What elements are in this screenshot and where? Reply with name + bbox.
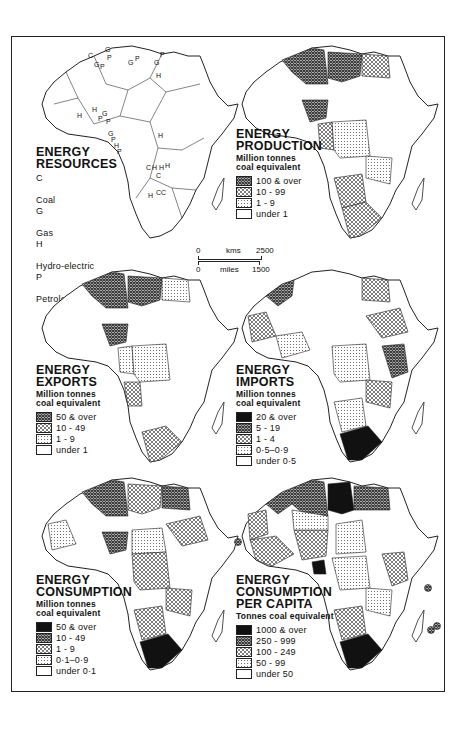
svg-text:G: G bbox=[128, 59, 133, 66]
swatch-dots bbox=[236, 198, 252, 208]
legend-label: under 1 bbox=[56, 444, 88, 456]
swatch-cross bbox=[236, 647, 252, 657]
svg-text:G: G bbox=[102, 110, 107, 117]
swatch-cross bbox=[36, 644, 52, 654]
legend-row: 20 & over bbox=[236, 411, 300, 422]
unit-line2: coal equivalent bbox=[236, 163, 322, 172]
imports-title-line2: IMPORTS bbox=[236, 376, 300, 388]
legend-row: 1 - 9 bbox=[36, 433, 100, 444]
svg-text:H: H bbox=[158, 132, 163, 139]
swatch-dots bbox=[236, 445, 252, 455]
swatch-solid bbox=[36, 622, 52, 632]
legend-label: under 1 bbox=[256, 208, 288, 220]
svg-text:H: H bbox=[165, 162, 170, 169]
svg-text:P: P bbox=[160, 51, 165, 58]
imports-title-block: ENERGY IMPORTS Million tonnescoal equiva… bbox=[236, 364, 300, 466]
per-capita-legend: 1000 & over 250 - 999 100 - 249 50 - 99 … bbox=[236, 624, 334, 679]
svg-text:C: C bbox=[146, 164, 151, 171]
svg-text:P: P bbox=[117, 148, 122, 155]
swatch-solid bbox=[236, 412, 252, 422]
swatch-solid bbox=[236, 625, 252, 635]
per-capita-title-line3: PER CAPITA bbox=[236, 598, 334, 610]
swatch-cross bbox=[36, 423, 52, 433]
svg-text:G: G bbox=[154, 59, 159, 66]
legend-row: 100 & over bbox=[236, 175, 322, 186]
svg-text:H: H bbox=[148, 192, 153, 199]
legend-row: under 50 bbox=[236, 668, 334, 679]
legend-row: 0·5–0·9 bbox=[236, 444, 300, 455]
unit-line2: coal equivalent bbox=[236, 399, 300, 408]
key-label: Coal bbox=[36, 195, 117, 206]
consumption-unit: Million tonnescoal equivalent bbox=[36, 600, 132, 618]
production-legend: 100 & over 10 - 99 1 - 9 under 1 bbox=[236, 175, 322, 219]
legend-row: 1 - 9 bbox=[36, 643, 132, 654]
svg-text:C: C bbox=[88, 52, 93, 59]
legend-label: under 0·5 bbox=[256, 455, 296, 467]
swatch-dots bbox=[36, 434, 52, 444]
legend-row: 10 - 49 bbox=[36, 422, 100, 433]
legend-row: 1 - 9 bbox=[236, 197, 322, 208]
swatch-none bbox=[36, 445, 52, 455]
island-seychelles bbox=[425, 585, 432, 592]
swatch-none bbox=[236, 456, 252, 466]
exports-title-block: ENERGY EXPORTS Million tonnescoal equiva… bbox=[36, 364, 100, 455]
key-gas: G Gas bbox=[36, 206, 117, 239]
swatch-none bbox=[236, 209, 252, 219]
per-capita-unit: Tonnes coal equivalent bbox=[236, 612, 334, 621]
island-reunion bbox=[434, 623, 441, 630]
svg-text:P: P bbox=[100, 63, 105, 70]
scale-kms-unit: kms bbox=[226, 246, 241, 255]
legend-row: under 0·5 bbox=[236, 455, 300, 466]
panel-energy-exports: ENERGY EXPORTS Million tonnescoal equiva… bbox=[32, 262, 242, 472]
legend-row: 50 & over bbox=[36, 411, 100, 422]
key-code: G bbox=[36, 206, 117, 217]
swatch-cross bbox=[236, 187, 252, 197]
resources-title-line2: RESOURCES bbox=[36, 158, 117, 170]
svg-text:P: P bbox=[135, 55, 140, 62]
panel-energy-resources: CGP GP GP GP H HHG PP GPHP H CHHH C HCC … bbox=[32, 38, 242, 248]
panel-energy-consumption-per-capita: ENERGY CONSUMPTION PER CAPITA Tonnes coa… bbox=[232, 470, 442, 680]
panel-energy-production: ENERGY PRODUCTION Million tonnescoal equ… bbox=[232, 38, 442, 248]
exports-legend: 50 & over 10 - 49 1 - 9 under 1 bbox=[36, 411, 100, 455]
svg-text:P: P bbox=[107, 54, 112, 61]
legend-label: under 0·1 bbox=[56, 665, 96, 677]
legend-row: 1 - 4 bbox=[236, 433, 300, 444]
legend-row: 50 - 99 bbox=[236, 657, 334, 668]
production-unit: Million tonnescoal equivalent bbox=[236, 154, 322, 172]
exports-unit: Million tonnescoal equivalent bbox=[36, 390, 100, 408]
unit-line2: coal equivalent bbox=[36, 399, 100, 408]
scale-kms-bar bbox=[198, 256, 262, 260]
swatch-none bbox=[236, 669, 252, 679]
svg-text:H: H bbox=[156, 72, 161, 79]
production-title-block: ENERGY PRODUCTION Million tonnescoal equ… bbox=[236, 128, 322, 219]
legend-row: under 0·1 bbox=[36, 665, 132, 676]
panel-energy-consumption: ENERGY CONSUMPTION Million tonnescoal eq… bbox=[32, 470, 242, 680]
swatch-dots bbox=[236, 658, 252, 668]
consumption-title-block: ENERGY CONSUMPTION Million tonnescoal eq… bbox=[36, 574, 132, 676]
svg-text:P: P bbox=[106, 118, 111, 125]
unit-line2: coal equivalent bbox=[36, 609, 132, 618]
legend-row: 0·1–0·9 bbox=[36, 654, 132, 665]
key-code: H bbox=[36, 239, 117, 250]
legend-row: 250 - 999 bbox=[236, 635, 334, 646]
legend-row: 10 - 99 bbox=[236, 186, 322, 197]
exports-title-line2: EXPORTS bbox=[36, 376, 100, 388]
svg-text:G: G bbox=[94, 61, 99, 68]
imports-unit: Million tonnescoal equivalent bbox=[236, 390, 300, 408]
imports-legend: 20 & over 5 - 19 1 - 4 0·5–0·9 under 0·5 bbox=[236, 411, 300, 466]
production-title-line2: PRODUCTION bbox=[236, 140, 322, 152]
key-coal: C Coal bbox=[36, 173, 117, 206]
swatch-none bbox=[36, 666, 52, 676]
svg-text:G: G bbox=[105, 46, 110, 53]
swatch-dense bbox=[36, 412, 52, 422]
svg-text:C: C bbox=[156, 172, 161, 179]
unit-line1: Tonnes coal equivalent bbox=[236, 612, 334, 621]
scale-kms-end: 2500 bbox=[256, 246, 274, 255]
key-code: C bbox=[36, 173, 117, 184]
legend-row: under 1 bbox=[36, 444, 100, 455]
legend-row: 10 - 49 bbox=[36, 632, 132, 643]
svg-text:P: P bbox=[98, 115, 103, 122]
swatch-dense bbox=[236, 176, 252, 186]
swatch-dense bbox=[36, 633, 52, 643]
consumption-legend: 50 & over 10 - 49 1 - 9 0·1–0·9 under 0·… bbox=[36, 621, 132, 676]
